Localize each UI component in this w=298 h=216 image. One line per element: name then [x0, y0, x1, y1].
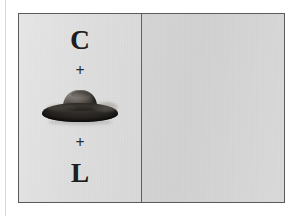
- equation-operator-upper: +: [75, 63, 84, 79]
- hat-brim-highlight: [47, 104, 77, 111]
- figure-frame: C + + L: [18, 13, 285, 203]
- hat-brim-curl: [91, 102, 118, 112]
- left-panel: C + + L: [19, 14, 141, 202]
- equation-operator-lower: +: [75, 135, 84, 151]
- hat-icon: [42, 90, 118, 124]
- equation-term-top: C: [70, 27, 90, 54]
- equation-term-bottom: L: [71, 160, 89, 187]
- page-edge-rule: [5, 0, 6, 216]
- right-panel: [142, 14, 284, 202]
- screenshot-root: C + + L: [0, 0, 298, 216]
- equation-stack: C + + L: [42, 27, 118, 187]
- hat-crease: [71, 91, 89, 98]
